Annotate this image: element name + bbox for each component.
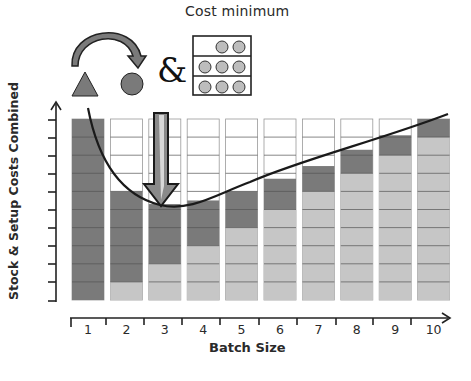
x-tick-label: 4 xyxy=(193,322,213,337)
setup-segment xyxy=(149,204,181,264)
stock-segment xyxy=(187,246,219,300)
x-tick-label: 10 xyxy=(424,322,444,337)
bar-column-9 xyxy=(379,119,411,300)
triangle-setup-icon xyxy=(72,72,98,96)
bar-column-7 xyxy=(302,119,334,300)
x-tick-label: 8 xyxy=(347,322,367,337)
setup-segment xyxy=(341,150,373,174)
x-tick-label: 5 xyxy=(232,322,252,337)
x-tick-label: 7 xyxy=(308,322,328,337)
setup-segment xyxy=(110,191,142,282)
setup-segment xyxy=(264,179,296,210)
bar-column-8 xyxy=(341,119,373,300)
bar-column-10 xyxy=(418,119,450,300)
bar-column-2 xyxy=(110,119,142,300)
bar-columns xyxy=(72,119,450,300)
ampersand-icon: & xyxy=(157,50,187,90)
circle-setup-icon xyxy=(121,73,143,95)
x-tick-label: 9 xyxy=(385,322,405,337)
x-axis-label: Batch Size xyxy=(209,340,286,355)
y-axis-label: Stock & Setup Costs Combined xyxy=(6,82,21,300)
y-axis xyxy=(48,102,61,302)
x-tick-label: 1 xyxy=(78,322,98,337)
stock-shelf-icon xyxy=(193,36,251,95)
x-tick-label: 2 xyxy=(116,322,136,337)
x-tick-label: 3 xyxy=(155,322,175,337)
curved-arrow-icon xyxy=(72,33,146,68)
stock-segment xyxy=(341,173,373,300)
bar-column-4 xyxy=(187,119,219,300)
stock-segment xyxy=(418,137,450,300)
bar-column-5 xyxy=(226,119,258,300)
x-tick-label: 6 xyxy=(270,322,290,337)
setup-segment xyxy=(379,135,411,155)
setup-segment xyxy=(418,119,450,137)
stock-segment xyxy=(110,282,142,300)
bar-column-6 xyxy=(264,119,296,300)
setup-segment xyxy=(187,200,219,245)
setup-segment xyxy=(302,166,334,191)
stock-segment xyxy=(264,210,296,301)
